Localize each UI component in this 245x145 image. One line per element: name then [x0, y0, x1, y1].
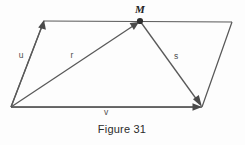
vector-r-label: r: [71, 50, 74, 60]
vector-u: [11, 20, 46, 107]
vector-diagram: u r s v M Figure 31: [0, 0, 245, 145]
vector-u-shaft: [11, 26, 42, 107]
vector-s-shaft: [140, 21, 197, 100]
right-edge: [202, 22, 232, 107]
point-m-dot: [137, 18, 143, 24]
vector-v-label: v: [104, 107, 109, 117]
vector-r-shaft: [11, 26, 133, 107]
vector-s-label: s: [174, 51, 178, 61]
figure-container: u r s v M Figure 31: [0, 0, 245, 145]
vector-u-label: u: [19, 50, 24, 60]
vector-r-arrowhead: [130, 22, 139, 30]
point-m-label: M: [134, 3, 146, 15]
vector-r: [11, 22, 139, 107]
figure-caption: Figure 31: [98, 123, 146, 135]
vector-s: [140, 21, 202, 107]
